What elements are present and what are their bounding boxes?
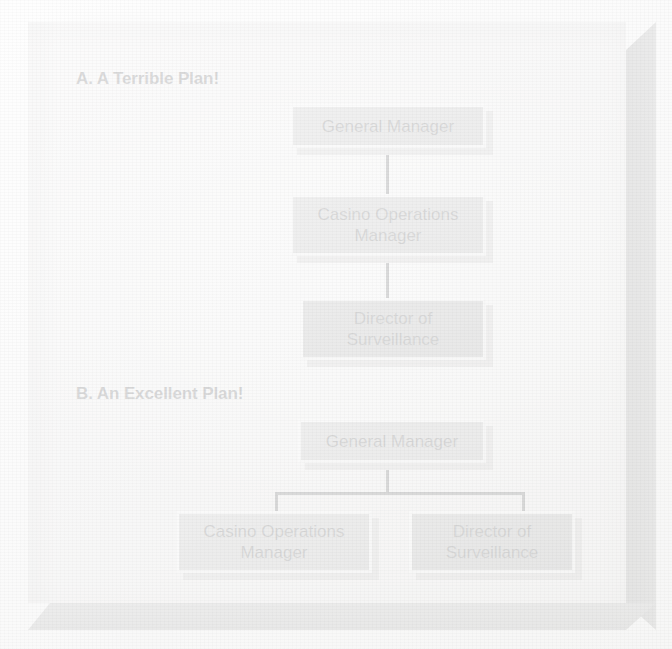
node-label: General Manager — [320, 431, 464, 452]
node-face: Director of Surveillance — [300, 298, 486, 360]
node-label: General Manager — [316, 116, 460, 137]
connector-b-crossbar — [275, 492, 525, 495]
node-face: General Manager — [298, 419, 486, 463]
org-chart-figure: A. A Terrible Plan! General Manager Casi… — [0, 0, 672, 649]
connector-b-trunk — [386, 470, 389, 494]
node-face: Casino Operations Manager — [176, 511, 372, 573]
panel-right-bevel — [626, 22, 656, 630]
connector-a-com-to-dos — [386, 263, 389, 299]
node-label: Casino Operations Manager — [312, 204, 465, 246]
node-face: General Manager — [290, 104, 486, 148]
node-label: Director of Surveillance — [341, 308, 446, 350]
node-b-general-manager: General Manager — [298, 419, 486, 463]
node-a-director-of-surveillance: Director of Surveillance — [300, 298, 486, 360]
section-heading-plan-a: A. A Terrible Plan! — [76, 69, 219, 89]
node-label: Director of Surveillance — [440, 521, 545, 563]
node-label: Casino Operations Manager — [198, 521, 351, 563]
node-face: Casino Operations Manager — [290, 194, 486, 256]
panel-bottom-bevel — [28, 603, 656, 630]
node-b-casino-operations-manager: Casino Operations Manager — [176, 511, 372, 573]
connector-a-gm-to-com — [386, 155, 389, 195]
node-a-general-manager: General Manager — [290, 104, 486, 148]
section-heading-plan-b: B. An Excellent Plan! — [76, 384, 243, 404]
node-a-casino-operations-manager: Casino Operations Manager — [290, 194, 486, 256]
node-b-director-of-surveillance: Director of Surveillance — [409, 511, 575, 573]
node-face: Director of Surveillance — [409, 511, 575, 573]
